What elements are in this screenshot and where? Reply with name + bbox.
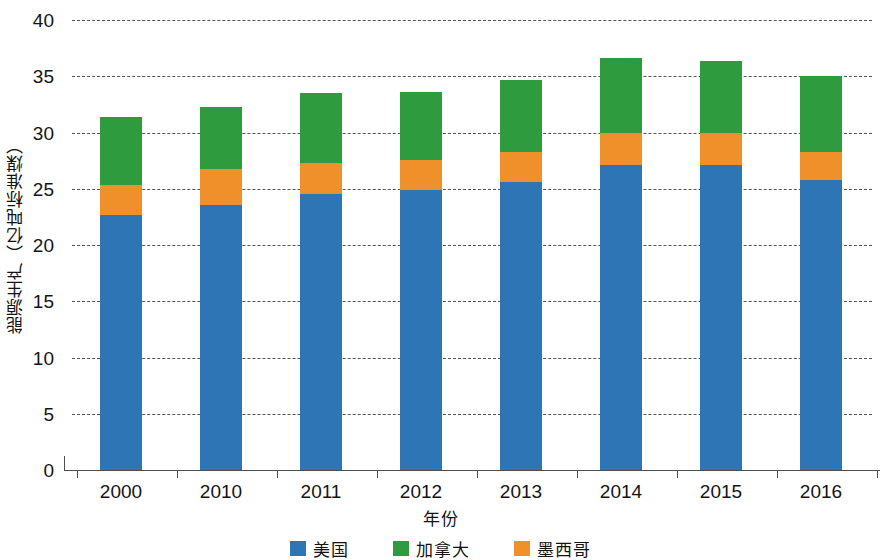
legend-item-美国[interactable]: 美国 [290, 536, 349, 560]
bar-2015 [700, 61, 742, 471]
x-tick-mark [377, 470, 378, 478]
x-tick-mark [477, 470, 478, 478]
bar-segment-加拿大 [600, 58, 642, 132]
bar-segment-美国 [800, 180, 842, 470]
x-tick-mark [677, 470, 678, 478]
y-tick-label: 15 [0, 292, 54, 311]
gridline [72, 358, 872, 359]
bar-segment-加拿大 [100, 117, 142, 186]
bar-segment-美国 [300, 194, 342, 470]
gridline [72, 189, 872, 190]
bar-segment-加拿大 [700, 61, 742, 133]
x-tick-label-2000: 2000 [76, 481, 166, 503]
y-axis-spine [64, 456, 65, 470]
y-tick-label: 25 [0, 180, 54, 199]
bar-2016 [800, 76, 842, 470]
x-tick-mark [177, 470, 178, 478]
legend-item-加拿大[interactable]: 加拿大 [393, 536, 470, 560]
x-tick-mark [577, 470, 578, 478]
y-tick-label: 10 [0, 349, 54, 368]
legend-swatch-icon [514, 541, 530, 556]
y-tick-label: 40 [0, 11, 54, 30]
x-tick-label-2013: 2013 [476, 481, 566, 503]
x-tick-label-2012: 2012 [376, 481, 466, 503]
legend-item-墨西哥[interactable]: 墨西哥 [514, 536, 591, 560]
legend-label: 加拿大 [416, 536, 470, 560]
bar-segment-美国 [600, 165, 642, 470]
x-tick-mark [77, 470, 78, 478]
bar-2014 [600, 58, 642, 470]
gridline [72, 76, 872, 77]
y-tick-label: 0 [0, 461, 54, 480]
bar-segment-墨西哥 [500, 152, 542, 182]
bar-segment-美国 [100, 215, 142, 470]
stacked-bar-chart: 能源生产（亿吨标准煤） 年份 美国加拿大墨西哥 0510152025303540… [0, 0, 881, 560]
x-tick-label-2010: 2010 [176, 481, 266, 503]
x-tick-mark [277, 470, 278, 478]
bar-segment-墨西哥 [200, 169, 242, 205]
bar-segment-墨西哥 [400, 160, 442, 190]
y-tick-label: 30 [0, 124, 54, 143]
bar-segment-墨西哥 [600, 133, 642, 166]
bar-segment-墨西哥 [800, 152, 842, 180]
x-axis-title: 年份 [0, 505, 881, 530]
bar-2013 [500, 80, 542, 470]
bar-2011 [300, 93, 342, 470]
bar-segment-墨西哥 [700, 133, 742, 166]
bar-segment-美国 [700, 165, 742, 470]
legend-label: 美国 [313, 536, 349, 560]
bar-2000 [100, 117, 142, 470]
x-tick-label-2016: 2016 [776, 481, 866, 503]
y-tick-label: 5 [0, 405, 54, 424]
bar-2010 [200, 107, 242, 470]
legend-label: 墨西哥 [537, 536, 591, 560]
bar-segment-墨西哥 [100, 185, 142, 214]
x-tick-label-2011: 2011 [276, 481, 366, 503]
x-tick-mark [777, 470, 778, 478]
bar-segment-美国 [500, 182, 542, 470]
gridline [72, 245, 872, 246]
bar-segment-美国 [400, 190, 442, 470]
bar-segment-加拿大 [400, 92, 442, 160]
x-axis-line [64, 470, 880, 471]
bar-segment-加拿大 [800, 76, 842, 151]
x-tick-label-2015: 2015 [676, 481, 766, 503]
x-tick-label-2014: 2014 [576, 481, 666, 503]
gridline [72, 301, 872, 302]
bar-segment-加拿大 [500, 80, 542, 152]
x-tick-mark [877, 470, 878, 478]
plot-area [72, 20, 872, 470]
bar-segment-美国 [200, 205, 242, 471]
gridline [72, 20, 872, 21]
gridline [72, 414, 872, 415]
bar-2012 [400, 92, 442, 470]
bar-segment-加拿大 [200, 107, 242, 169]
bar-segment-墨西哥 [300, 163, 342, 195]
bar-segment-加拿大 [300, 93, 342, 163]
legend-swatch-icon [290, 541, 306, 556]
y-tick-label: 20 [0, 236, 54, 255]
y-tick-label: 35 [0, 67, 54, 86]
gridline [72, 133, 872, 134]
chart-legend: 美国加拿大墨西哥 [0, 536, 881, 560]
legend-swatch-icon [393, 541, 409, 556]
